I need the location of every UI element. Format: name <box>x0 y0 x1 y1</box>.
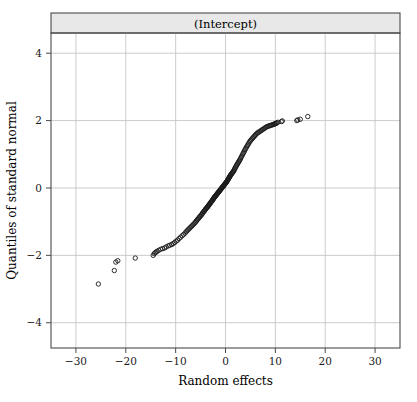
y-tick-label: −2 <box>27 249 42 261</box>
strip-header: (Intercept) <box>51 13 400 33</box>
qq-plot-figure: (Intercept) −30−20−100102030 −4−2024 Ran… <box>0 0 417 402</box>
qq-plot-canvas: (Intercept) −30−20−100102030 −4−2024 Ran… <box>0 0 417 402</box>
x-tick-label: 10 <box>269 355 282 367</box>
x-tick-label: −10 <box>165 355 187 367</box>
y-axis-title: Quantiles of standard normal <box>5 101 19 280</box>
y-tick-label: −4 <box>27 316 43 328</box>
x-axis-title: Random effects <box>178 374 273 388</box>
x-tick-label: −30 <box>65 355 87 367</box>
strip-label-text: (Intercept) <box>194 17 257 31</box>
y-tick-label: 4 <box>35 47 42 59</box>
y-tick-label: 2 <box>35 114 42 126</box>
x-tick-label: 0 <box>222 355 229 367</box>
y-tick-label: 0 <box>35 182 42 194</box>
figure-background <box>0 0 417 402</box>
x-tick-label: −20 <box>115 355 137 367</box>
x-tick-label: 20 <box>319 355 332 367</box>
x-tick-label: 30 <box>368 355 381 367</box>
